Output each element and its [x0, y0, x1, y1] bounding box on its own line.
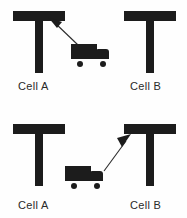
truck-top — [71, 44, 113, 68]
truck-rear-wheel-icon — [77, 61, 83, 67]
truck-cab-icon — [90, 171, 103, 181]
truck-front-wheel-icon — [94, 183, 100, 189]
truck-rear-wheel-icon — [71, 183, 77, 189]
diagram-canvas: Cell A Cell B Cell A Cell B — [0, 0, 187, 218]
truck-cargo-box-icon — [65, 166, 91, 181]
label-bottom-cell-b: Cell B — [130, 199, 161, 211]
label-bottom-cell-a: Cell A — [18, 199, 49, 211]
label-top-cell-b: Cell B — [130, 80, 161, 92]
label-top-cell-a: Cell A — [18, 80, 49, 92]
panel-bottom: Cell A Cell B — [0, 109, 187, 218]
truck-cargo-box-icon — [71, 44, 97, 59]
truck-front-wheel-icon — [100, 61, 106, 67]
truck-cab-icon — [96, 49, 109, 59]
truck-bottom — [65, 166, 107, 190]
arrow-head-icon — [48, 17, 62, 28]
panel-top: Cell A Cell B — [0, 0, 187, 109]
arrow-head-icon — [117, 134, 131, 147]
